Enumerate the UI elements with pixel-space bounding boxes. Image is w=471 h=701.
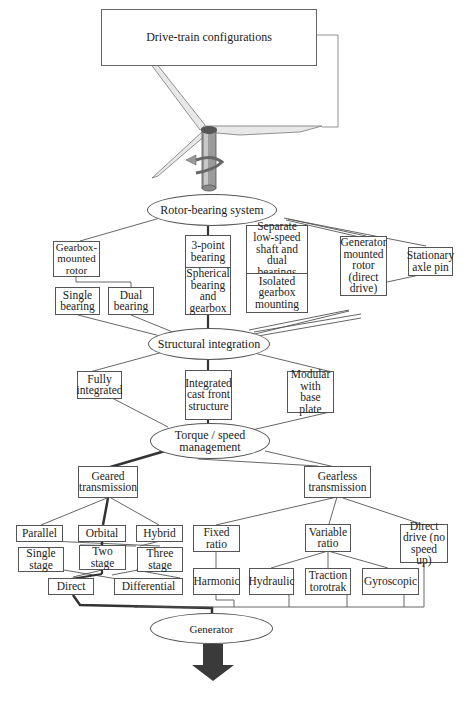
diagram-title: Drive-train configurations	[146, 30, 272, 45]
fully-integrated-node: Fully integrated	[77, 371, 122, 399]
harmonic-node: Harmonic	[193, 568, 240, 595]
node-label: Spherical bearing and gearbox	[186, 268, 229, 314]
node-label: Generator mounted rotor (direct drive)	[341, 237, 387, 295]
differential-node: Differential	[114, 578, 183, 595]
node-label: Variable ratio	[308, 527, 348, 550]
node-label: Rotor-bearing system	[160, 204, 263, 216]
single-bearing-node: Single bearing	[55, 287, 100, 315]
isolated-gearbox-mounting-node: Isolated gearbox mounting	[246, 273, 308, 313]
node-label: Single bearing	[58, 290, 97, 313]
hydraulic-node: Hydraulic	[249, 568, 294, 595]
integrated-cast-front-node: Integrated cast front structure	[185, 370, 232, 420]
node-label: Torque / speed management	[170, 429, 250, 453]
traction-torotrak-node: Traction torotrak	[305, 568, 351, 595]
variable-ratio-node: Variable ratio	[305, 524, 351, 552]
gyroscopic-node: Gyroscopic	[362, 568, 419, 595]
node-label: Hybrid	[143, 528, 176, 540]
node-label: Orbital	[86, 528, 119, 540]
node-label: Dual bearing	[111, 290, 151, 313]
node-label: Modular with base plate	[290, 369, 331, 415]
fixed-ratio-node: Fixed ratio	[193, 525, 240, 552]
dual-bearing-node: Dual bearing	[108, 287, 154, 315]
node-label: Isolated gearbox mounting	[249, 276, 305, 311]
three-point-bearing-node: 3-point bearing	[185, 235, 231, 268]
direct-drive-no-speed-up-node: Direct drive (no speed up)	[400, 524, 448, 563]
node-label: Fixed ratio	[196, 527, 237, 550]
diagram-title-box: Drive-train configurations	[101, 9, 317, 66]
three-stage-node: Three stage	[137, 547, 183, 572]
wind-turbine-illustration	[150, 63, 322, 191]
output-arrow-icon	[192, 644, 234, 681]
structural-integration-node: Structural integration	[148, 328, 270, 360]
node-label: Integrated cast front structure	[185, 378, 232, 413]
two-stage-node: Two stage	[79, 545, 126, 570]
hybrid-node: Hybrid	[136, 525, 183, 542]
node-label: Generator	[190, 623, 234, 635]
single-stage-node: Single stage	[18, 547, 64, 572]
node-label: Single stage	[21, 548, 61, 571]
spherical-bearing-gearbox-node: Spherical bearing and gearbox	[185, 267, 231, 315]
node-label: Harmonic	[194, 576, 240, 588]
node-label: Gearbox-mounted rotor	[56, 242, 98, 277]
node-label: Stationary axle pin	[407, 250, 454, 273]
orbital-node: Orbital	[78, 525, 126, 542]
direct-node: Direct	[48, 578, 94, 595]
node-label: Gyroscopic	[364, 576, 417, 588]
node-label: 3-point bearing	[188, 240, 228, 263]
node-label: Parallel	[22, 528, 57, 540]
node-label: Separate low-speed shaft and dual bearin…	[249, 221, 305, 279]
geared-transmission-node: Geared transmission	[78, 466, 138, 498]
generator-node: Generator	[150, 613, 273, 644]
gearless-transmission-node: Gearless transmission	[304, 466, 371, 498]
modular-base-plate-node: Modular with base plate	[287, 371, 334, 413]
generator-mounted-rotor-node: Generator mounted rotor (direct drive)	[340, 236, 387, 296]
stationary-axle-pin-node: Stationary axle pin	[408, 247, 453, 276]
node-label: Fully integrated	[77, 374, 123, 397]
node-label: Gearless transmission	[307, 471, 368, 494]
node-label: Differential	[122, 581, 175, 593]
node-label: Three stage	[140, 548, 180, 571]
node-label: Hydraulic	[249, 576, 295, 588]
node-label: Two stage	[82, 546, 123, 569]
torque-speed-management-node: Torque / speed management	[150, 423, 270, 459]
node-label: Structural integration	[158, 338, 260, 350]
node-label: Traction torotrak	[308, 570, 348, 593]
gearbox-mounted-rotor-node: Gearbox-mounted rotor	[53, 241, 100, 277]
parallel-node: Parallel	[16, 525, 63, 542]
separate-low-speed-shaft-node: Separate low-speed shaft and dual bearin…	[246, 225, 308, 274]
node-label: Direct drive (no speed up)	[403, 521, 445, 567]
node-label: Direct	[57, 581, 86, 593]
node-label: Geared transmission	[79, 471, 137, 494]
